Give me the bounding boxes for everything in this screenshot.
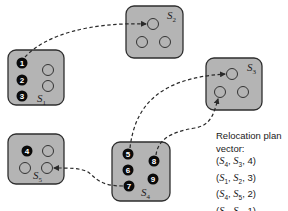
slot-empty	[43, 65, 54, 76]
plan-entry: (S1, S2, 3)	[216, 172, 282, 188]
slot-empty	[148, 19, 159, 30]
plan-entry: (S4, S3, 1)	[216, 205, 282, 211]
plan-title-line1: Relocation plan	[216, 130, 282, 143]
slot-empty	[20, 163, 31, 174]
server-s2: S2	[126, 6, 183, 58]
slot-empty	[43, 81, 54, 92]
slot-empty	[227, 69, 238, 80]
slot-empty	[160, 37, 171, 48]
plan-entry: (S4, S3, 4)	[216, 155, 282, 171]
server-s5: 4 S5	[8, 134, 64, 184]
svg-text:8: 8	[152, 157, 157, 166]
slot-empty	[238, 87, 249, 98]
svg-text:4: 4	[25, 147, 30, 156]
slot-empty	[137, 37, 148, 48]
server-s4: 5 6 7 8 9 S4	[112, 142, 170, 201]
server-s1: 1 2 3 S1	[8, 50, 64, 107]
svg-text:7: 7	[127, 182, 132, 191]
svg-text:2: 2	[20, 76, 25, 85]
svg-text:3: 3	[20, 92, 25, 101]
svg-text:1: 1	[20, 59, 25, 68]
svg-text:5: 5	[126, 150, 131, 159]
relocation-plan: Relocation plan vector: (S4, S3, 4) (S1,…	[216, 130, 282, 211]
plan-entry: (S4, S5, 2)	[216, 188, 282, 204]
svg-text:9: 9	[151, 175, 156, 184]
slot-empty	[42, 163, 53, 174]
plan-title-line2: vector:	[216, 143, 282, 156]
slot-empty	[43, 146, 54, 157]
svg-text:6: 6	[126, 166, 131, 175]
slot-empty	[215, 87, 226, 98]
server-s3: S3	[206, 58, 262, 110]
